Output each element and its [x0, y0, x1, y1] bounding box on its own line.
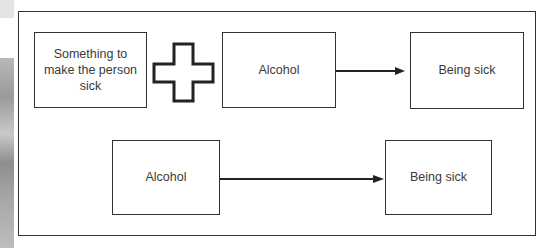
arrow-right-icon-row2 [0, 0, 556, 251]
